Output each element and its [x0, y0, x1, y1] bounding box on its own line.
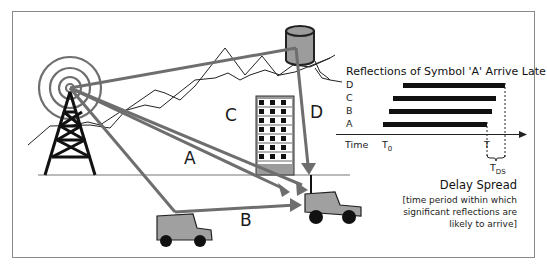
bar-d: [403, 83, 505, 88]
receiving-vehicle-icon: [305, 175, 361, 224]
row-label-b: B: [346, 105, 353, 116]
time-axis-label: Time: [345, 139, 368, 150]
multipath-diagram: A B C D Reflections of Symbol 'A' Arrive…: [0, 0, 547, 268]
timing-chart-title: Reflections of Symbol 'A' Arrive Late: [346, 65, 546, 78]
tds-label: TDS: [490, 162, 506, 176]
bar-b: [389, 109, 492, 114]
t0-label: T0: [382, 139, 392, 153]
path-label-a: A: [184, 148, 196, 168]
row-label-a: A: [346, 118, 353, 129]
bar-c: [393, 96, 496, 101]
delay-spread-note-3: likely to arrive]: [449, 218, 517, 230]
row-label-c: C: [346, 92, 353, 103]
path-label-d: D: [310, 102, 323, 122]
building-icon: [256, 96, 294, 175]
water-tower-icon: [286, 26, 314, 65]
delay-spread-note-1: [time period within which: [402, 194, 517, 206]
t-label: T: [484, 139, 490, 150]
delay-spread-brace: [487, 155, 505, 161]
delay-spread-note-2: significant reflections are: [403, 206, 517, 218]
delay-spread-title: Delay Spread: [440, 178, 517, 192]
t0-subscript: 0: [388, 145, 392, 153]
row-label-d: D: [346, 79, 353, 90]
path-label-b: B: [240, 210, 252, 230]
transmission-tower-icon: [45, 92, 95, 175]
bar-a: [383, 122, 487, 127]
tds-subscript: DS: [496, 168, 506, 176]
parked-vehicle-icon: [157, 214, 212, 247]
path-label-c: C: [225, 105, 237, 125]
